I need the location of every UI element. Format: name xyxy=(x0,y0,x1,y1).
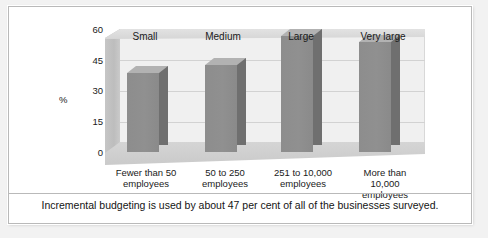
bar-medium-side xyxy=(237,58,246,145)
category-label-4-line1: More than xyxy=(347,167,423,178)
bar-small-side xyxy=(159,66,168,145)
y-axis-unit-label: % xyxy=(59,94,67,105)
y-tick-60: 60 xyxy=(59,25,103,35)
bar-large-front xyxy=(281,36,313,152)
category-label-3-line2: employees xyxy=(261,178,345,189)
category-header-very-large: Very large xyxy=(341,31,425,42)
bar-large-side xyxy=(313,29,322,145)
category-label-1-line1: Fewer than 50 xyxy=(105,167,187,178)
category-label-4-line2: 10,000 xyxy=(347,178,423,189)
category-header-medium: Medium xyxy=(185,31,261,42)
y-tick-0: 0 xyxy=(59,148,103,158)
category-header-large: Large xyxy=(265,31,337,42)
plot-box xyxy=(105,29,425,165)
bar-small-front xyxy=(127,73,159,152)
bar-medium xyxy=(205,65,246,152)
chart-area: 60 45 30 15 0 % Small Medium Large Very … xyxy=(9,7,473,193)
y-tick-45: 45 xyxy=(59,56,103,66)
bar-large xyxy=(281,36,322,152)
chart-caption: Incremental budgeting is used by about 4… xyxy=(9,199,471,211)
category-label-2-line1: 50 to 250 xyxy=(189,167,261,178)
category-label-1-line2: employees xyxy=(105,178,187,189)
category-label-3: 251 to 10,000 employees xyxy=(261,167,345,189)
category-label-2-line2: employees xyxy=(189,178,261,189)
bar-very-large xyxy=(359,42,400,152)
category-header-small: Small xyxy=(109,31,181,42)
caption-divider xyxy=(9,193,471,194)
y-tick-15: 15 xyxy=(59,117,103,127)
bar-very-large-front xyxy=(359,42,391,152)
category-label-2: 50 to 250 employees xyxy=(189,167,261,189)
figure-frame: 60 45 30 15 0 % Small Medium Large Very … xyxy=(8,6,472,224)
category-label-1: Fewer than 50 employees xyxy=(105,167,187,189)
bar-medium-front xyxy=(205,65,237,152)
category-label-3-line1: 251 to 10,000 xyxy=(261,167,345,178)
category-label-4: More than 10,000 employees xyxy=(347,167,423,200)
bar-small xyxy=(127,73,168,152)
bar-very-large-side xyxy=(391,35,400,145)
